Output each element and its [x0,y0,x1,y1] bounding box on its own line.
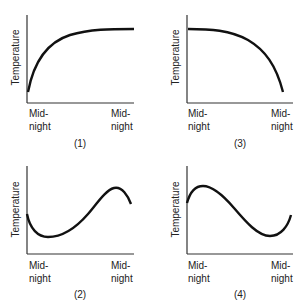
x-tick-right: Mid- night [271,259,293,285]
chart-panel-2: Temperature Mid- night Mid- night (2) [0,154,150,308]
chart-panel-3: Temperature Mid- night Mid- night (3) [150,0,300,154]
x-tick-left-line1: Mid- [29,107,51,120]
chart-panel-1: Temperature Mid- night Mid- night (1) [0,0,150,154]
chart-caption: (4) [225,289,255,300]
y-axis-label: Temperature [170,23,181,93]
x-tick-right-line2: night [271,272,293,285]
x-tick-left-line2: night [188,272,210,285]
x-tick-right: Mid- night [111,107,133,133]
y-axis-label: Temperature [170,175,181,245]
x-tick-left-line1: Mid- [188,259,210,272]
temperature-curve [188,29,283,92]
chart-caption: (3) [225,138,255,149]
chart-panel-4: Temperature Mid- night Mid- night (4) [150,154,300,308]
x-tick-left: Mid- night [188,259,210,285]
temperature-curve [27,188,131,237]
x-tick-right-line1: Mid- [271,259,293,272]
chart-caption: (2) [65,289,95,300]
x-tick-left-line2: night [29,272,51,285]
x-tick-right-line1: Mid- [111,259,133,272]
x-tick-left: Mid- night [188,107,210,133]
x-tick-left-line1: Mid- [29,259,51,272]
x-tick-right-line2: night [271,120,293,133]
x-tick-right-line2: night [111,120,133,133]
x-tick-left: Mid- night [29,107,51,133]
x-tick-left: Mid- night [29,259,51,285]
x-tick-right: Mid- night [111,259,133,285]
temperature-curve [187,186,291,236]
y-axis-label: Temperature [10,23,21,93]
x-tick-left-line2: night [29,120,51,133]
x-tick-right: Mid- night [271,107,293,133]
chart-caption: (1) [65,138,95,149]
x-tick-right-line1: Mid- [271,107,293,120]
x-tick-right-line2: night [111,272,133,285]
x-tick-left-line1: Mid- [188,107,210,120]
temperature-curve [28,29,134,92]
y-axis-label: Temperature [10,175,21,245]
x-tick-left-line2: night [188,120,210,133]
x-tick-right-line1: Mid- [111,107,133,120]
